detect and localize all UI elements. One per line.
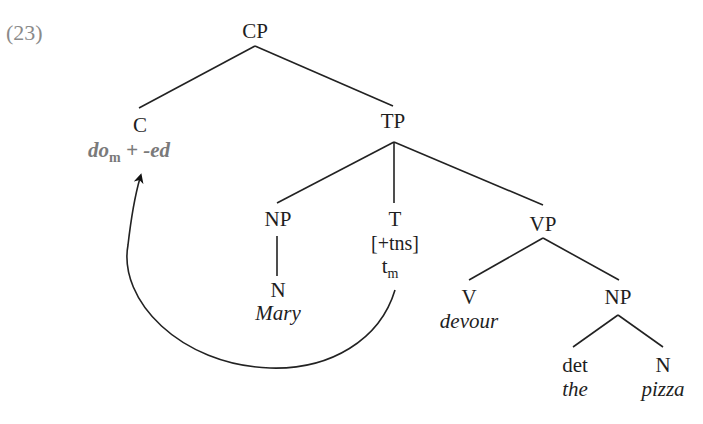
example-number: (23) [6,20,43,45]
word-pizza: pizza [639,377,684,401]
node-c-content: dom + -ed [88,138,170,165]
node-np-subject: NP [265,207,292,231]
node-v: V [461,285,476,309]
word-mary: Mary [254,301,301,325]
trace: tm [382,254,399,281]
node-tp: TP [381,109,406,133]
edge-np-n [618,315,663,347]
edge-cp-tp [255,46,393,106]
word-the: the [562,377,588,401]
movement-arrow [127,178,395,368]
node-np-object: NP [605,285,632,309]
tense-feature: [+tns] [371,232,419,254]
edge-cp-c [139,46,255,108]
node-det: det [562,353,588,377]
word-devour: devour [440,309,499,333]
node-n-object: N [655,353,670,377]
node-c: C [133,113,147,137]
edge-vp-v [469,238,543,280]
syntax-tree-diagram: (23) CP C dom + -ed TP NP N Mary T [+tns… [0,0,703,424]
edge-tp-np [277,142,394,203]
node-t: T [389,207,402,231]
node-cp: CP [242,19,268,43]
node-vp: VP [530,212,557,236]
edge-np-det [573,315,618,347]
node-n-subject: N [270,278,285,302]
edge-tp-vp [394,142,543,205]
edge-vp-np [543,238,619,280]
